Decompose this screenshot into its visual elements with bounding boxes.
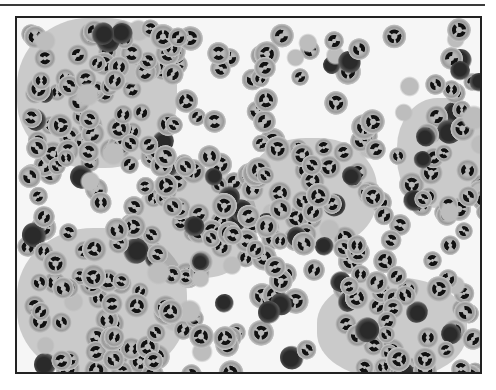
cell	[291, 68, 310, 87]
cell	[214, 293, 235, 314]
cell	[102, 349, 124, 371]
cell	[28, 186, 49, 207]
cell	[320, 86, 353, 119]
cell	[175, 155, 197, 177]
cell	[396, 73, 423, 100]
cell	[298, 255, 329, 286]
cell	[214, 356, 248, 374]
micrograph-image	[15, 16, 482, 374]
cell	[457, 186, 479, 208]
cell	[379, 21, 409, 51]
top-rule	[0, 4, 485, 6]
cell	[315, 236, 334, 255]
